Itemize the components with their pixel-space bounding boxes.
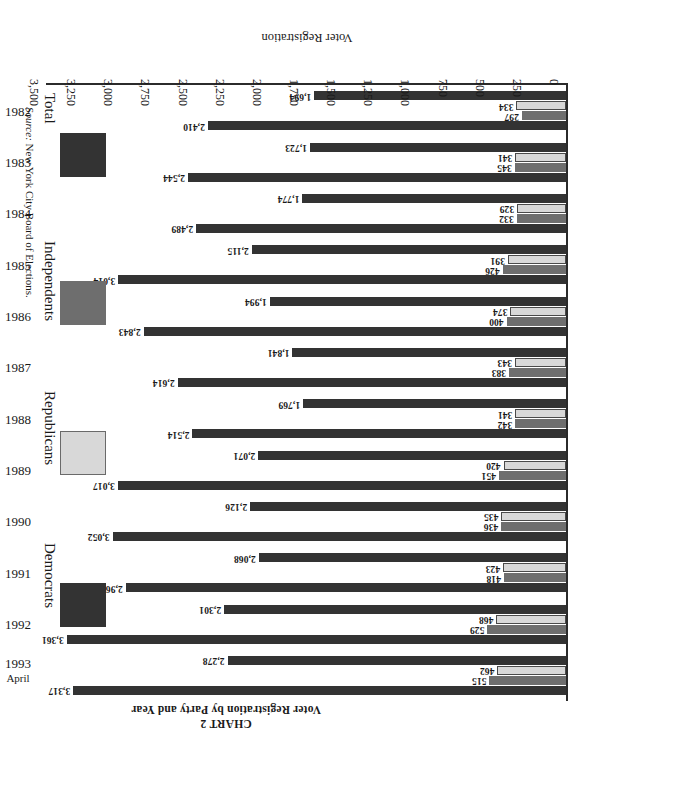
- bar-total-1983: [188, 173, 566, 182]
- bar-value-label: 2,126: [225, 503, 247, 512]
- rotated-figure-wrapper: CHART 2 Voter Registration by Party and …: [0, 0, 676, 787]
- bar-value-label: 400: [489, 317, 504, 326]
- bar-value-label: 342: [498, 420, 513, 429]
- chart-figure: CHART 2 Voter Registration by Party and …: [0, 0, 676, 787]
- bar-group: 3,0144263912,115: [46, 239, 566, 290]
- value-tick-2750: 2,750: [137, 79, 152, 106]
- value-tick-1500: 1,500: [323, 79, 338, 106]
- value-tick-1750: 1,750: [286, 79, 301, 106]
- bar-value-label: 1,841: [268, 349, 290, 358]
- bar-value-label: 2,514: [168, 430, 190, 439]
- bar-value-label: 2,278: [203, 657, 225, 666]
- bar-group: 2,5443453411,723: [46, 136, 566, 187]
- bar-value-label: 297: [504, 112, 519, 121]
- value-tick-2250: 2,250: [212, 79, 227, 106]
- bar-independents-1991: [504, 573, 566, 582]
- bar-value-label: 2,301: [199, 605, 221, 614]
- bar-democrats-1986: [270, 297, 566, 306]
- value-tick-750: 750: [435, 79, 450, 97]
- bar-independents-1992: [487, 625, 566, 634]
- value-tick-500: 500: [472, 79, 487, 97]
- bar-value-label: 345: [497, 163, 512, 172]
- bar-value-label: 2,071: [233, 451, 255, 460]
- bar-value-label: 2,843: [119, 327, 141, 336]
- bar-total-1990: [113, 532, 566, 541]
- bar-value-label: 462: [480, 667, 495, 676]
- bar-republicans-1991: [503, 563, 566, 572]
- bar-value-label: 1,994: [245, 297, 267, 306]
- bar-democrats-1990: [250, 502, 566, 511]
- bar-value-label: 2,068: [234, 554, 256, 563]
- legend-swatch-republicans: [60, 431, 106, 475]
- bar-group: 3,0174514202,071: [46, 444, 566, 495]
- value-tick-250: 250: [509, 79, 524, 97]
- bar-independents-1985: [503, 265, 566, 274]
- bar-group: 2,9634184232,068: [46, 547, 566, 598]
- bar-group: 3,0524364352,126: [46, 496, 566, 547]
- bar-value-label: 451: [481, 471, 496, 480]
- bar-republicans-1987: [515, 358, 566, 367]
- bar-republicans-1983: [515, 153, 566, 162]
- bar-total-1992: [67, 635, 566, 644]
- value-tick-0: 0: [546, 79, 561, 85]
- bar-total-1987: [178, 378, 566, 387]
- legend-label: Republicans: [41, 391, 58, 465]
- bar-value-label: 2,544: [163, 173, 185, 182]
- title-block: CHART 2 Voter Registration by Party and …: [76, 703, 376, 731]
- bar-republicans-1982: [516, 101, 566, 110]
- bar-democrats-1992: [224, 605, 566, 614]
- bar-republicans-1988: [515, 409, 566, 418]
- bar-independents-1986: [507, 317, 566, 326]
- value-tick-1250: 1,250: [360, 79, 375, 106]
- legend-label: Independents: [41, 241, 58, 321]
- value-tick-2000: 2,000: [249, 79, 264, 106]
- bar-value-label: 341: [498, 153, 513, 162]
- value-axis-rule: [46, 83, 568, 85]
- bar-value-label: 435: [484, 513, 499, 522]
- bar-value-label: 334: [499, 102, 514, 111]
- bar-value-label: 529: [470, 625, 485, 634]
- bar-republicans-1990: [501, 512, 566, 521]
- bar-value-label: 329: [500, 205, 515, 214]
- legend-swatch-independents: [60, 281, 106, 325]
- bar-value-label: 515: [472, 677, 487, 686]
- bar-value-label: 343: [497, 359, 512, 368]
- value-tick-2500: 2,500: [175, 79, 190, 106]
- bar-group: 2,4893323291,774: [46, 188, 566, 239]
- legend-swatch-total: [60, 133, 106, 177]
- bar-total-1993: [73, 686, 566, 695]
- bar-independents-1990: [501, 522, 566, 531]
- bar-total-1991: [126, 583, 566, 592]
- bar-democrats-1988: [303, 399, 566, 408]
- bar-total-1989: [118, 481, 566, 490]
- bar-democrats-1989: [258, 451, 566, 460]
- bar-independents-1983: [515, 163, 566, 172]
- bar-independents-1988: [515, 419, 566, 428]
- bar-value-label: 426: [485, 266, 500, 275]
- value-tick-1000: 1,000: [397, 79, 412, 106]
- chart-number-label: CHART 2: [76, 717, 376, 731]
- bar-democrats-1983: [310, 143, 566, 152]
- bar-value-label: 420: [486, 461, 501, 470]
- page-title: Voter Registration by Party and Year: [76, 703, 376, 717]
- bar-independents-1989: [499, 471, 566, 480]
- bar-value-label: 391: [490, 256, 505, 265]
- value-axis-line: [566, 85, 568, 701]
- bar-total-1988: [193, 429, 567, 438]
- bar-republicans-1986: [510, 307, 566, 316]
- bar-group: 2,4102973341,694: [46, 85, 566, 136]
- bar-value-label: 2,489: [171, 225, 193, 234]
- bar-value-label: 468: [479, 615, 494, 624]
- bar-total-1986: [144, 327, 566, 336]
- plot-area: 2,4102973341,6942,5443453411,7232,489332…: [46, 85, 568, 701]
- bar-republicans-1989: [504, 461, 566, 470]
- bar-group: 3,3615294682,301: [46, 598, 566, 649]
- bar-democrats-1991: [259, 553, 566, 562]
- bar-value-label: 383: [492, 369, 507, 378]
- bar-democrats-1984: [302, 194, 566, 203]
- bar-group: 2,5143423411,769: [46, 393, 566, 444]
- bar-value-label: 374: [493, 307, 508, 316]
- bar-value-label: 341: [498, 410, 513, 419]
- legend-label: Total: [41, 93, 58, 124]
- bar-total-1985: [118, 275, 566, 284]
